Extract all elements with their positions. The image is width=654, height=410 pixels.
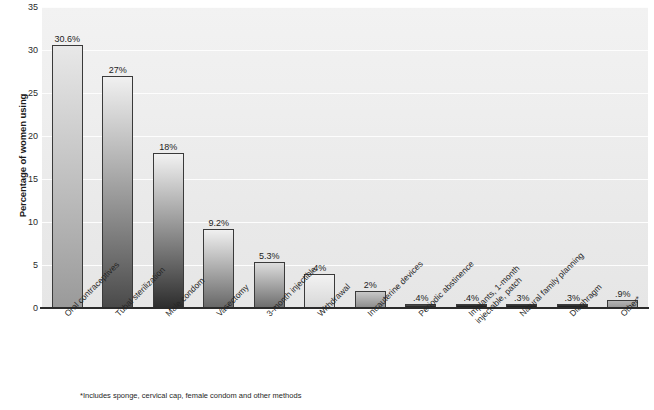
y-tick-label: 20 — [6, 131, 38, 141]
gridline — [42, 7, 648, 8]
bar-value-label: 18% — [159, 143, 177, 152]
y-tick-label: 35 — [6, 2, 38, 12]
bar: 30.6% — [52, 45, 83, 308]
y-tick-label: 25 — [6, 88, 38, 98]
bar-value-label: 30.6% — [54, 35, 80, 44]
bar-chart: Percentage of women using 30.6%27%18%9.2… — [0, 0, 654, 410]
bar-value-label: 27% — [109, 66, 127, 75]
bar-value-label: 9.2% — [208, 219, 229, 228]
plot-area: 30.6%27%18%9.2%5.3%4%2%.4%.4%.3%.3%.9% — [42, 7, 648, 308]
bar-value-label: 2% — [364, 281, 377, 290]
bar-value-label: 5.3% — [259, 252, 280, 261]
bar: 18% — [153, 153, 184, 308]
y-tick-label: 15 — [6, 174, 38, 184]
y-tick-label: 30 — [6, 45, 38, 55]
chart-footnote: *Includes sponge, cervical cap, female c… — [80, 391, 301, 400]
y-tick-label: 5 — [6, 260, 38, 270]
y-tick-label: 0 — [6, 303, 38, 313]
gridline — [42, 50, 648, 51]
bar-value-label: .9% — [615, 290, 631, 299]
y-axis-ticks: 05101520253035 — [0, 0, 38, 410]
y-tick-label: 10 — [6, 217, 38, 227]
